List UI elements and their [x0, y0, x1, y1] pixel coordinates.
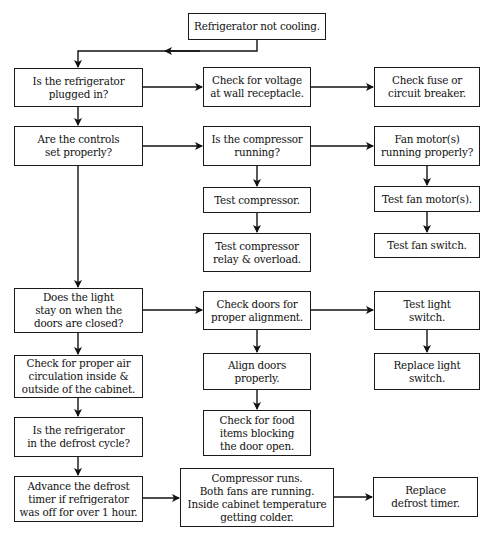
node-controls: Are the controls set properly?	[14, 126, 143, 166]
node-compressor-runs: Compressor runs. Both fans are running. …	[180, 468, 334, 527]
node-test-fan-motor: Test fan motor(s).	[374, 186, 480, 212]
node-plugged-in: Is the refrigerator plugged in?	[14, 68, 143, 107]
node-test-compressor: Test compressor.	[203, 187, 311, 213]
node-defrost-cycle: Is the refrigerator in the defrost cycle…	[14, 417, 143, 457]
connector-start-to-plugged	[78, 40, 257, 67]
node-test-light-switch: Test light switch.	[374, 291, 480, 330]
node-air-circulation: Check for proper air circulation inside …	[14, 355, 143, 398]
node-check-doors: Check doors for proper alignment.	[203, 291, 311, 330]
node-fan-motors: Fan motor(s) running properly?	[374, 126, 480, 166]
node-start: Refrigerator not cooling.	[188, 13, 326, 40]
flowchart-canvas: Refrigerator not cooling. Is the refrige…	[0, 0, 489, 536]
node-replace-timer: Replace defrost timer.	[373, 477, 478, 517]
node-check-fuse: Check fuse or circuit breaker.	[374, 67, 480, 107]
node-test-relay: Test compressor relay & overload.	[203, 233, 311, 272]
node-advance-timer: Advance the defrost timer if refrigerato…	[14, 476, 143, 522]
node-food-blocking: Check for food items blocking the door o…	[203, 410, 311, 456]
node-align-doors: Align doors properly.	[203, 353, 311, 390]
node-compressor-running: Is the compressor running?	[203, 126, 311, 166]
node-replace-light-switch: Replace light switch.	[374, 353, 480, 390]
node-light-stays-on: Does the light stay on when the doors ar…	[14, 288, 143, 333]
node-check-voltage: Check for voltage at wall receptacle.	[203, 67, 311, 107]
node-test-fan-switch: Test fan switch.	[374, 233, 480, 258]
